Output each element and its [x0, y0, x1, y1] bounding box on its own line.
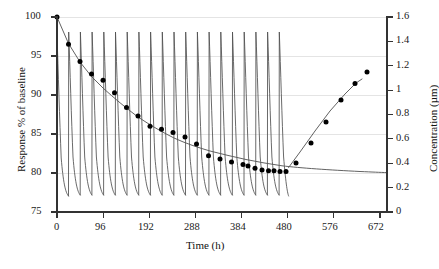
data-point	[171, 130, 176, 135]
y2-tick-label-0_2: 0.2	[396, 182, 409, 193]
response-data-points	[55, 15, 289, 175]
y-tick-label-90: 90	[31, 89, 42, 100]
gridlines	[57, 17, 387, 173]
y-tick-label-95: 95	[31, 50, 42, 61]
y-axis-right-ticks	[387, 17, 393, 212]
data-point	[324, 120, 329, 125]
y2-tick-label-1_4: 1.4	[396, 35, 409, 46]
y-axis-left-ticks	[51, 17, 57, 212]
data-point	[124, 105, 129, 110]
data-point	[284, 169, 289, 174]
data-point	[253, 166, 258, 171]
data-point	[246, 164, 251, 169]
data-point	[260, 167, 265, 172]
data-point	[365, 70, 370, 75]
concentration-sawtooth-series	[57, 32, 289, 212]
data-point	[148, 124, 153, 129]
data-point	[266, 168, 271, 173]
x-tick-label-672: 672	[368, 222, 384, 233]
y2-tick-label-0_6: 0.6	[396, 133, 409, 144]
data-point	[66, 42, 71, 47]
data-point	[294, 161, 299, 166]
y2-tick-label-0_8: 0.8	[396, 108, 409, 119]
x-tick-label-288: 288	[184, 222, 200, 233]
x-tick-label-384: 384	[230, 222, 246, 233]
x-tick-label-0: 0	[54, 222, 59, 233]
dose-cycle-2	[69, 32, 81, 196]
y-axis-right-title: Concentration (µm)	[428, 85, 439, 172]
data-point	[278, 169, 283, 174]
y-axis-left-title: Response % of baseline	[16, 67, 27, 172]
data-point	[112, 90, 117, 95]
x-tick-label-480: 480	[276, 222, 292, 233]
y-tick-label-80: 80	[31, 167, 42, 178]
data-point	[353, 81, 358, 86]
data-point	[101, 78, 106, 83]
data-point	[194, 142, 199, 147]
data-point	[183, 135, 188, 140]
data-point	[241, 162, 246, 167]
data-point	[159, 127, 164, 132]
data-point	[272, 168, 277, 173]
x-tick-label-576: 576	[322, 222, 338, 233]
data-point	[339, 98, 344, 103]
data-point	[309, 141, 314, 146]
y2-tick-label-1: 1	[396, 84, 401, 95]
x-axis-ticks	[57, 212, 380, 218]
data-point	[78, 59, 83, 64]
y2-tick-label-0_4: 0.4	[396, 157, 409, 168]
data-point	[229, 160, 234, 165]
y-tick-label-100: 100	[25, 11, 41, 22]
concentration-recovery-points	[294, 70, 370, 166]
data-point	[206, 153, 211, 158]
x-tick-label-192: 192	[138, 222, 154, 233]
y2-tick-label-1_6: 1.6	[396, 11, 409, 22]
y-tick-label-85: 85	[31, 128, 42, 139]
y2-tick-label-0: 0	[396, 206, 401, 217]
data-point	[89, 72, 94, 77]
dose-cycle-1	[57, 35, 69, 212]
data-point	[218, 156, 223, 161]
y2-tick-label-1_2: 1.2	[396, 60, 409, 71]
y-tick-label-75: 75	[31, 206, 42, 217]
x-axis-title: Time (h)	[186, 240, 224, 251]
data-point	[136, 114, 141, 119]
x-tick-label-96: 96	[95, 222, 106, 233]
